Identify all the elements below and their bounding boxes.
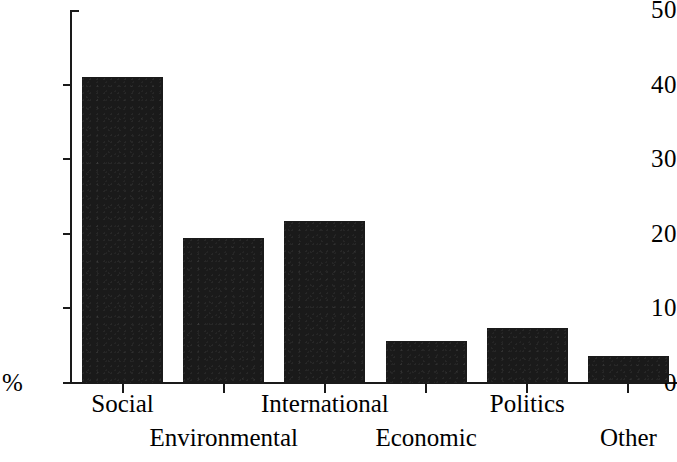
y-axis-tick-label: 10 — [625, 295, 677, 320]
x-axis-category-label: Social — [91, 390, 154, 417]
bar-chart: 01020304050 % SocialEnvironmentalInterna… — [0, 0, 677, 462]
x-axis-category-label: Economic — [375, 424, 476, 451]
y-axis-tick-label: 30 — [625, 146, 677, 171]
bar — [588, 356, 669, 383]
y-axis-line — [70, 10, 72, 384]
y-axis-tick-label: 50 — [625, 0, 677, 22]
bar — [82, 77, 163, 383]
y-axis-tick — [63, 307, 71, 309]
y-axis-tick — [63, 158, 71, 160]
y-axis-tick — [63, 84, 71, 86]
x-axis-tick — [223, 384, 225, 393]
x-axis-category-label: Other — [600, 424, 657, 451]
x-axis-tick — [425, 384, 427, 393]
y-axis-unit-label: % — [2, 370, 23, 395]
y-axis-tick — [63, 382, 71, 384]
x-axis-category-label: International — [261, 390, 389, 417]
y-axis-tick-label: 40 — [625, 72, 677, 97]
y-axis-tick-label: 20 — [625, 221, 677, 246]
bar — [284, 221, 365, 383]
bar — [183, 238, 264, 383]
y-axis-top-cap — [70, 10, 79, 12]
bar — [487, 328, 568, 383]
x-axis-category-label: Politics — [490, 390, 565, 417]
bar — [386, 341, 467, 383]
y-axis-tick — [63, 233, 71, 235]
x-axis-category-label: Environmental — [149, 424, 298, 451]
x-axis-tick — [627, 384, 629, 393]
